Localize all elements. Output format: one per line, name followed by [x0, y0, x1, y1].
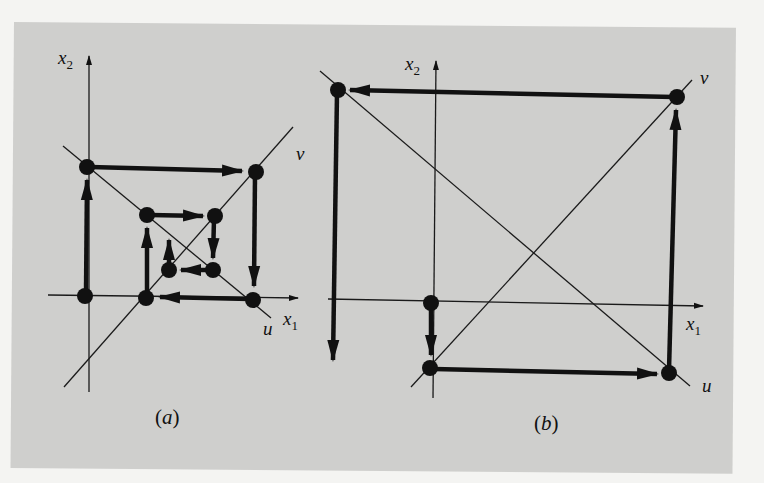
- v-label-b: v: [700, 67, 709, 88]
- point-b-1: [422, 360, 438, 376]
- u-label-a: u: [263, 318, 273, 339]
- v-label-a: v: [296, 143, 305, 164]
- panel-a: x2 x1 u v (a): [48, 47, 305, 429]
- x2-label-b: x2: [404, 53, 420, 78]
- caption-b: (b): [534, 411, 559, 435]
- point-a-8: [161, 262, 177, 278]
- v-line-b: [411, 80, 692, 387]
- x1-label-a: x1: [282, 308, 298, 333]
- u-label-b: u: [702, 375, 712, 396]
- point-a-2: [248, 164, 264, 180]
- point-a-5: [139, 207, 155, 223]
- x1-axis-b: [328, 299, 703, 306]
- point-a-4: [138, 290, 154, 306]
- figure-diagram: x2 x1 u v (a) x2 x1 u v (b): [0, 0, 764, 483]
- point-b-2: [661, 365, 677, 381]
- arrow-a-4: [160, 297, 250, 299]
- point-b-0: [423, 295, 439, 311]
- point-b-3: [669, 89, 685, 105]
- arrow-a-7: [213, 219, 214, 258]
- x2-label-a: x2: [57, 47, 73, 72]
- arrow-a-2: [90, 167, 242, 171]
- point-b-4: [330, 82, 346, 98]
- point-a-1: [79, 159, 95, 175]
- panel-b: x2 x1 u v (b): [320, 53, 712, 435]
- arrow-b-3: [669, 110, 676, 370]
- arrow-a-6: [150, 215, 203, 216]
- caption-a: (a): [155, 405, 180, 429]
- arrow-a-3: [254, 175, 255, 286]
- u-line-b: [320, 71, 690, 386]
- point-a-7: [205, 262, 221, 278]
- arrow-b-5: [333, 93, 337, 360]
- point-a-0: [77, 288, 93, 304]
- arrow-b-4: [350, 90, 674, 97]
- x1-label-b: x1: [685, 313, 701, 338]
- arrow-b-2: [434, 369, 657, 374]
- x2-axis-b: [433, 61, 436, 398]
- point-a-3: [245, 292, 261, 308]
- point-a-6: [207, 208, 223, 224]
- arrow-a-1: [86, 180, 87, 294]
